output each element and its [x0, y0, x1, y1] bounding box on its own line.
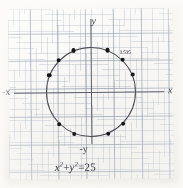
x-axis-label: x	[168, 85, 173, 95]
point-value-label: 3.535	[120, 51, 131, 56]
data-point	[121, 121, 125, 125]
y-axis-label: y	[91, 16, 96, 26]
equation-label: x2+y2=25	[55, 160, 96, 173]
data-point	[106, 131, 110, 135]
equation-rhs: 25	[84, 161, 96, 173]
negative-x-axis-label: -x	[2, 87, 10, 97]
data-point	[130, 72, 134, 76]
graph-paper-figure: y -y -x x 3.535 x2+y2=25	[0, 0, 183, 188]
negative-y-axis-label: -y	[79, 144, 87, 154]
plot-area: y -y -x x 3.535 x2+y2=25	[0, 0, 183, 188]
data-point	[72, 132, 76, 136]
